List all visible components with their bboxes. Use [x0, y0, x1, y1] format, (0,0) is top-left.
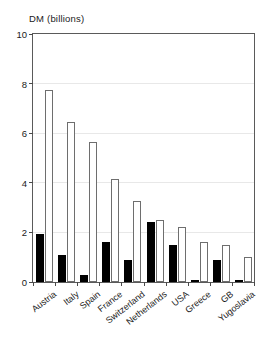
bar-chart-figure: DM (billions) 0246810 AustriaItalySpainF…: [0, 0, 268, 345]
bar-filled: [36, 234, 44, 282]
bar-hollow: [45, 90, 53, 282]
bar-hollow: [133, 201, 141, 282]
bar-group: [213, 34, 231, 282]
plot-frame: 0246810: [32, 33, 255, 283]
x-axis-tick-mark: [188, 282, 189, 286]
x-axis-tick-label: Italy: [61, 289, 80, 307]
bar-group: [235, 34, 253, 282]
bar-group: [58, 34, 76, 282]
y-axis-tick-mark: [29, 133, 33, 134]
bar-hollow: [200, 242, 208, 282]
y-axis-tick-label: 10: [16, 29, 27, 40]
bar-group: [191, 34, 209, 282]
bar-hollow: [89, 142, 97, 282]
x-axis-tick-mark: [99, 282, 100, 286]
y-axis-tick-label: 8: [22, 78, 27, 89]
x-axis-tick-label: Austria: [30, 289, 58, 314]
bar-filled: [213, 260, 221, 282]
bar-group: [169, 34, 187, 282]
bar-filled: [147, 222, 155, 282]
bar-hollow: [244, 257, 252, 282]
y-axis-tick-label: 4: [22, 177, 27, 188]
bar-filled: [124, 260, 132, 282]
bar-hollow: [178, 227, 186, 282]
y-axis-tick-label: 6: [22, 128, 27, 139]
plot-area: 0246810: [33, 34, 254, 282]
y-axis-tick-label: 0: [22, 277, 27, 288]
y-axis-tick-mark: [29, 182, 33, 183]
y-axis-tick-mark: [29, 232, 33, 233]
chart-title: DM (billions): [29, 13, 84, 24]
x-axis-tick-mark: [121, 282, 122, 286]
y-axis-tick-mark: [29, 34, 33, 35]
bar-hollow: [111, 179, 119, 282]
bar-group: [80, 34, 98, 282]
x-axis-tick-mark: [55, 282, 56, 286]
x-axis-tick-mark: [144, 282, 145, 286]
x-axis-tick-mark: [232, 282, 233, 286]
y-axis-tick-mark: [29, 83, 33, 84]
bar-hollow: [222, 245, 230, 282]
x-axis-tick-mark: [210, 282, 211, 286]
y-axis-tick-label: 2: [22, 227, 27, 238]
bar-filled: [80, 275, 88, 282]
bar-filled: [102, 242, 110, 282]
x-axis-label-row: AustriaItalySpainFranceSwitzerlandNether…: [32, 289, 268, 345]
bar-hollow: [67, 122, 75, 282]
bar-hollow: [156, 220, 164, 282]
x-axis-tick-mark: [166, 282, 167, 286]
x-axis-tick-mark: [77, 282, 78, 286]
bar-group: [147, 34, 165, 282]
x-axis-tick-mark: [33, 282, 34, 286]
bar-group: [102, 34, 120, 282]
bar-filled: [58, 255, 66, 282]
bar-filled: [191, 280, 199, 282]
bar-filled: [169, 245, 177, 282]
x-axis-tick-mark: [254, 282, 255, 286]
bar-group: [36, 34, 54, 282]
bar-group: [124, 34, 142, 282]
bar-filled: [235, 280, 243, 282]
